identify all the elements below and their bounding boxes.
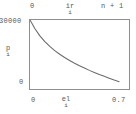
top-axis-max-tick-label: n + 1 (101, 2, 124, 10)
plot-area (29, 19, 130, 90)
top-axis-title-subscript: i (62, 9, 78, 16)
data-curve-path (30, 20, 119, 82)
y-axis-min-tick-label: 0 (19, 78, 24, 86)
y-axis-title: p i (1, 44, 15, 58)
top-axis-min-tick-label: 0 (30, 2, 35, 10)
x-axis-title: el i (57, 95, 75, 109)
x-axis-title-subscript: i (57, 102, 75, 109)
x-axis-max-tick-label: 0.7 (112, 96, 126, 104)
x-axis-min-tick-label: 0 (31, 96, 36, 104)
data-curve-svg (30, 20, 129, 89)
y-axis-title-subscript: i (1, 51, 15, 58)
y-axis-max-tick-label: 30000 (0, 17, 22, 25)
top-axis-title: ir i (62, 2, 78, 16)
plot-figure: 0 ir i n + 1 30000 p i 0 0 el i 0.7 (0, 0, 136, 114)
